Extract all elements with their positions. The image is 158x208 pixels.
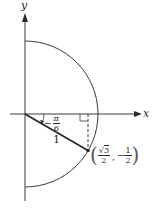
point-coordinate-label: ( √3 2 , − 1 2 ) [90,145,139,165]
x-axis-label: x [143,108,149,119]
y-sign: − [117,151,125,160]
angle-denominator: 6 [54,124,59,133]
y-numerator: 1 [124,146,131,156]
y-axis-label: y [21,0,27,11]
angle-label: − π 6 [44,114,60,133]
x-denominator: 2 [101,156,106,165]
angle-fraction: π 6 [53,114,60,133]
x-axis-arrow-icon [134,111,142,117]
radicand: 3 [104,146,109,155]
x-numerator: √3 [98,146,110,156]
unit-circle-diagram [0,0,158,208]
open-paren: ( [90,145,98,165]
radius-label: 1 [53,134,60,145]
y-axis-arrow-icon [22,13,28,22]
angle-sign: − [44,119,52,128]
y-coordinate-fraction: 1 2 [124,146,131,165]
y-denominator: 2 [125,156,130,165]
right-angle-marker [80,114,88,121]
close-paren: ) [132,145,140,165]
angle-numerator: π [53,114,60,124]
coordinate-separator: , [112,153,115,165]
x-coordinate-fraction: √3 2 [98,146,110,165]
